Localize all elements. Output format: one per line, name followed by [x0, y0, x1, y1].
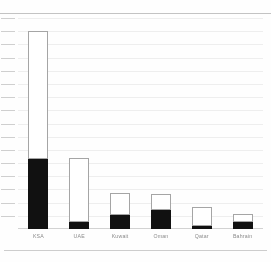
y-axis-tick: [1, 110, 15, 111]
x-axis-label: UAE: [74, 232, 85, 240]
top-rule: [0, 13, 271, 14]
y-axis-tick: [1, 58, 15, 59]
bar-group: [18, 18, 263, 229]
bar-segment-lower: [28, 159, 48, 229]
bar-segment-upper: [28, 31, 48, 160]
x-axis-label: Bahrain: [233, 232, 252, 240]
y-axis-tick: [1, 71, 15, 72]
bar-oman[interactable]: [151, 194, 171, 229]
y-axis-tick: [1, 97, 15, 98]
bar-segment-lower: [110, 215, 130, 229]
bar-segment-upper: [110, 193, 130, 215]
bar-segment-upper: [69, 158, 89, 221]
y-axis-tick: [1, 216, 15, 217]
chart-figure: KSAUAEKuwaitOmanQatarBahrain: [0, 0, 271, 262]
y-axis-tick: [1, 176, 15, 177]
bottom-rule: [4, 250, 267, 251]
y-axis-tick: [1, 44, 15, 45]
bar-segment-lower: [151, 210, 171, 229]
bar-segment-upper: [233, 214, 253, 221]
bar-uae[interactable]: [69, 158, 89, 229]
y-axis-tick: [1, 18, 15, 19]
y-axis-tick: [1, 163, 15, 164]
bar-segment-lower: [69, 222, 89, 229]
y-axis-tick: [1, 189, 15, 190]
y-axis-tick: [1, 84, 15, 85]
bar-bahrain[interactable]: [233, 214, 253, 229]
y-axis-tick: [1, 137, 15, 138]
bar-segment-lower: [233, 222, 253, 229]
y-axis-ticks: [0, 18, 18, 229]
x-axis-labels: KSAUAEKuwaitOmanQatarBahrain: [18, 232, 263, 246]
x-axis-label: Qatar: [195, 232, 209, 240]
bar-ksa[interactable]: [28, 31, 48, 229]
plot-area: [18, 18, 263, 229]
bar-segment-lower: [192, 226, 212, 229]
bar-kuwait[interactable]: [110, 193, 130, 229]
bar-qatar[interactable]: [192, 207, 212, 229]
x-axis-label: Oman: [153, 232, 168, 240]
x-axis-label: KSA: [33, 232, 44, 240]
y-axis-tick: [1, 150, 15, 151]
x-axis-label: Kuwait: [112, 232, 129, 240]
y-axis-tick: [1, 31, 15, 32]
bar-segment-upper: [192, 207, 212, 226]
y-axis-tick: [1, 124, 15, 125]
y-axis-tick: [1, 203, 15, 204]
bar-segment-upper: [151, 194, 171, 210]
